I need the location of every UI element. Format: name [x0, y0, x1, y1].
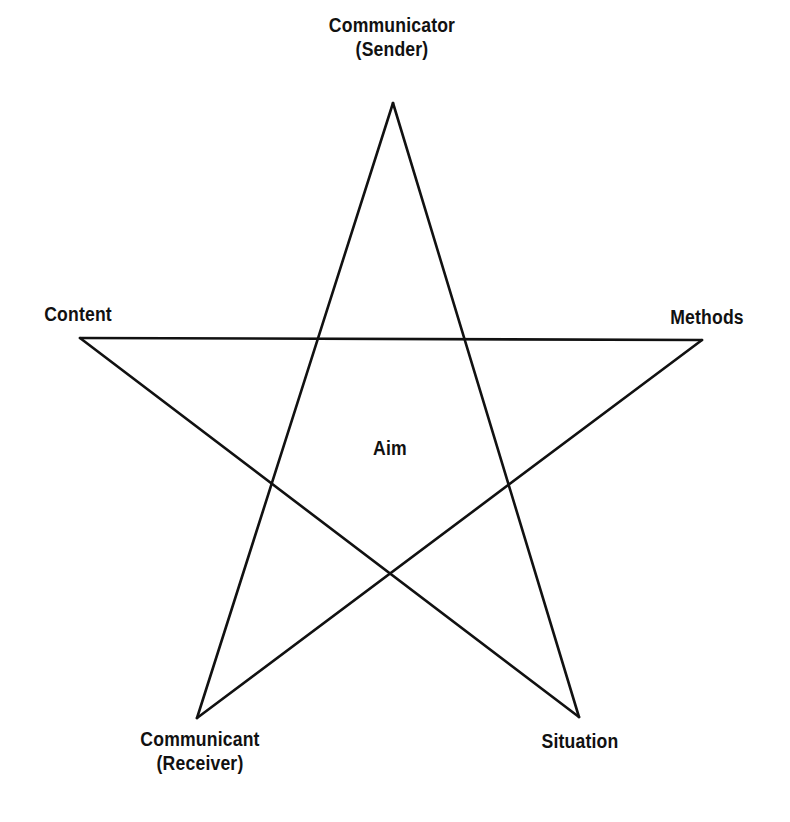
label-situation: Situation [527, 729, 633, 753]
edge-right-to-bottom-left [197, 340, 702, 718]
label-methods: Methods [659, 305, 756, 329]
edge-top-to-bottom-left [197, 103, 393, 718]
edge-top-to-bottom-right [393, 103, 579, 717]
label-communicant: Communicant (Receiver) [130, 727, 271, 775]
edge-left-to-bottom-right [80, 338, 579, 717]
pentagram-diagram [0, 0, 790, 822]
label-communicator: Communicator (Sender) [326, 13, 458, 61]
label-aim: Aim [359, 436, 421, 460]
label-communicant-line2: (Receiver) [130, 751, 271, 775]
label-methods-text: Methods [659, 305, 756, 329]
label-aim-text: Aim [359, 436, 421, 460]
edge-left-to-right [80, 338, 702, 340]
label-content: Content [34, 302, 122, 326]
label-communicator-line2: (Sender) [326, 37, 458, 61]
label-situation-text: Situation [527, 729, 633, 753]
label-content-text: Content [34, 302, 122, 326]
label-communicant-line1: Communicant [130, 727, 271, 751]
label-communicator-line1: Communicator [326, 13, 458, 37]
